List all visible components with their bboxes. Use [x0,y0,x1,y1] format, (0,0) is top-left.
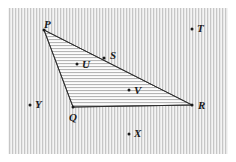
point-label-p: P [44,19,51,30]
point-label-v: V [134,85,141,96]
point-dot-y [29,104,32,107]
point-label-x: X [134,128,141,139]
point-label-r: R [198,100,205,111]
point-dot-x [128,133,131,136]
point-label-q: Q [69,112,77,123]
point-dot-s [103,57,106,60]
point-dot-t [191,28,194,31]
point-label-t: T [197,23,204,34]
point-label-s: S [110,50,116,61]
point-dot-r [191,104,194,107]
point-dot-q [72,106,75,109]
figure-canvas: P S U V R Q T X Y [0,0,236,162]
point-dot-v [128,89,131,92]
point-dot-u [76,63,79,66]
point-label-y: Y [35,99,42,110]
point-label-u: U [82,59,90,70]
